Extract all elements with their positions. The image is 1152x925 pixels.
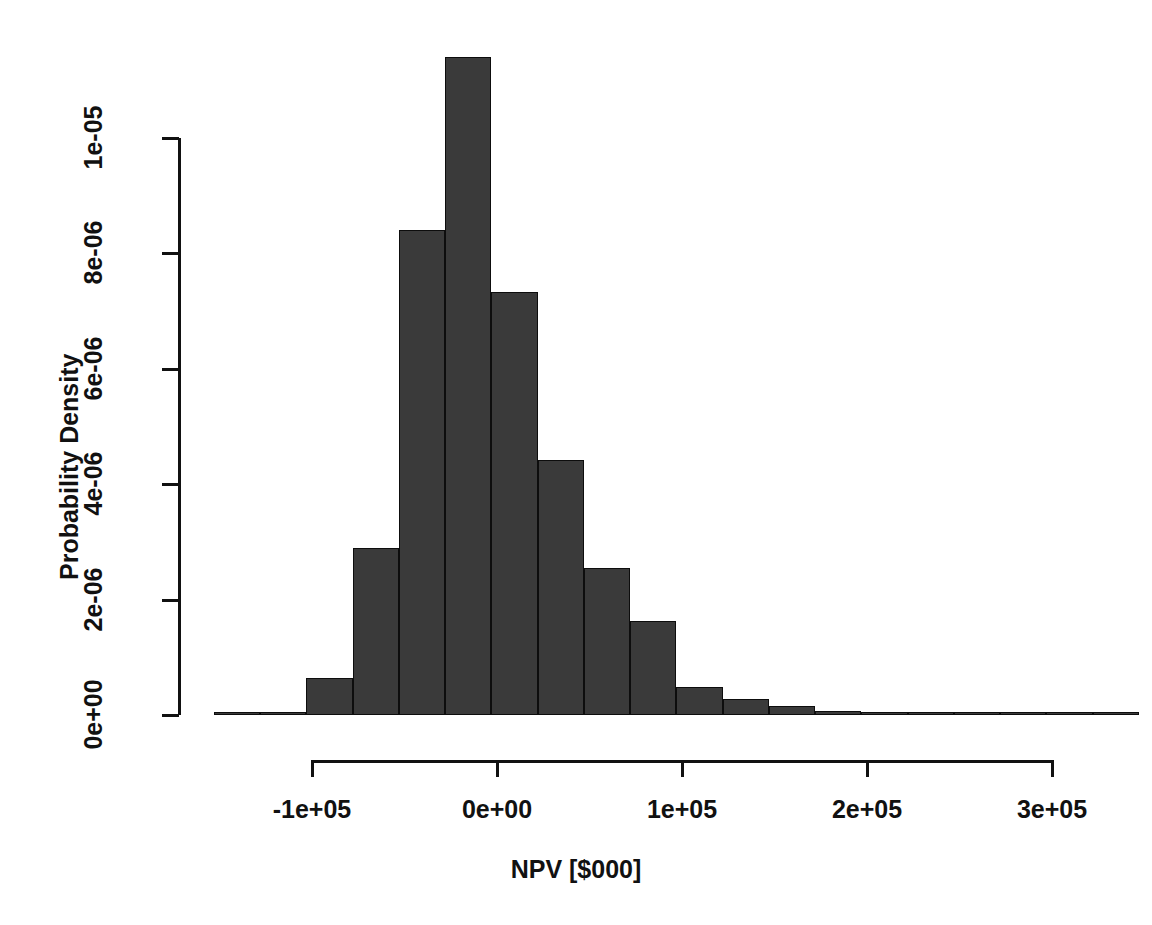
y-axis-tick bbox=[162, 368, 179, 371]
x-axis-tick bbox=[496, 760, 499, 777]
histogram-bar bbox=[630, 621, 676, 715]
histogram-bar bbox=[1000, 712, 1046, 715]
histogram-bar bbox=[769, 706, 815, 715]
histogram-bar bbox=[306, 678, 352, 715]
histogram-bar bbox=[491, 292, 537, 715]
y-axis-tick bbox=[162, 252, 179, 255]
y-axis-tick bbox=[162, 599, 179, 602]
y-axis-tick-label: 8e-06 bbox=[79, 198, 108, 308]
y-axis-line bbox=[178, 138, 181, 715]
x-axis-tick bbox=[681, 760, 684, 777]
x-axis-tick-label: 3e+05 bbox=[972, 795, 1132, 824]
y-axis-tick-label: 1e-05 bbox=[79, 83, 108, 193]
histogram-bar bbox=[538, 460, 584, 715]
histogram-bar bbox=[214, 712, 260, 715]
histogram-bar bbox=[861, 712, 907, 715]
x-axis-tick-label: 2e+05 bbox=[787, 795, 947, 824]
histogram-bar bbox=[445, 57, 491, 715]
histogram-bar bbox=[815, 711, 861, 715]
histogram-bar bbox=[723, 699, 769, 715]
y-axis-tick bbox=[162, 714, 179, 717]
histogram-bar bbox=[1046, 712, 1092, 715]
histogram-bar bbox=[954, 712, 1000, 715]
x-axis-tick-label: -1e+05 bbox=[232, 795, 392, 824]
x-axis-tick bbox=[311, 760, 314, 777]
x-axis-title: NPV [$000] bbox=[0, 855, 1152, 884]
histogram-bar bbox=[584, 568, 630, 715]
histogram-bar bbox=[676, 687, 722, 715]
histogram-bar bbox=[908, 712, 954, 715]
x-axis-tick-label: 0e+00 bbox=[417, 795, 577, 824]
y-axis-tick bbox=[162, 137, 179, 140]
histogram-bar bbox=[353, 548, 399, 715]
y-axis-tick bbox=[162, 483, 179, 486]
x-axis-tick bbox=[1051, 760, 1054, 777]
x-axis-tick bbox=[866, 760, 869, 777]
histogram-bar bbox=[399, 230, 445, 715]
histogram-bar bbox=[1093, 712, 1139, 715]
plot-area: 0e+002e-064e-066e-068e-061e-05 -1e+050e+… bbox=[0, 0, 1152, 925]
histogram-figure: 0e+002e-064e-066e-068e-061e-05 -1e+050e+… bbox=[0, 0, 1152, 925]
y-axis-tick-label: 0e+00 bbox=[79, 660, 108, 770]
histogram-bar bbox=[260, 712, 306, 715]
y-axis-title: Probability Density bbox=[55, 354, 84, 580]
x-axis-tick-label: 1e+05 bbox=[602, 795, 762, 824]
